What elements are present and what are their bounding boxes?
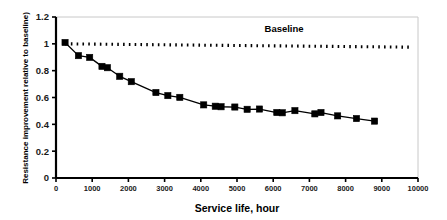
svg-text:6000: 6000 [265, 184, 282, 193]
plot-background [56, 17, 418, 178]
svg-text:0: 0 [54, 184, 58, 193]
svg-text:1000: 1000 [84, 184, 101, 193]
svg-text:2000: 2000 [120, 184, 137, 193]
svg-text:4000: 4000 [192, 184, 209, 193]
svg-text:0.8: 0.8 [36, 65, 49, 76]
svg-text:5000: 5000 [229, 184, 246, 193]
svg-text:1: 1 [44, 38, 50, 49]
svg-text:0.4: 0.4 [36, 119, 50, 130]
svg-text:10000: 10000 [408, 184, 429, 193]
line-chart: 00.20.40.60.811.2 0100020003000400050006… [0, 0, 447, 220]
svg-text:9000: 9000 [373, 184, 390, 193]
chart-figure: 00.20.40.60.811.2 0100020003000400050006… [0, 0, 447, 220]
svg-text:0.2: 0.2 [36, 146, 49, 157]
svg-text:8000: 8000 [337, 184, 354, 193]
x-axis-title: Service life, hour [195, 202, 280, 214]
baseline-annotation-label: Baseline [265, 23, 304, 34]
svg-text:0.6: 0.6 [36, 92, 49, 103]
svg-text:1.2: 1.2 [36, 11, 49, 22]
svg-text:3000: 3000 [156, 184, 173, 193]
y-axis-title: Resistance improvement relative to basel… [21, 12, 30, 184]
svg-text:0: 0 [44, 172, 49, 183]
y-axis-tick-labels: 00.20.40.60.811.2 [36, 11, 50, 183]
svg-text:7000: 7000 [301, 184, 318, 193]
x-axis-tick-labels: 0100020003000400050006000700080009000100… [54, 184, 429, 193]
